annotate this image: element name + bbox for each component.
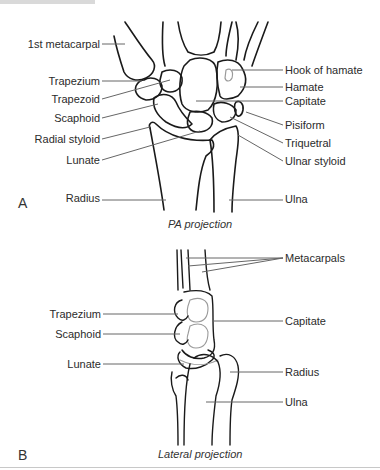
pa-leader-lines	[102, 44, 283, 200]
label-lunate-lateral: Lunate	[67, 358, 101, 371]
label-radial-styloid: Radial styloid	[35, 133, 100, 146]
panel-letter-b: B	[18, 447, 27, 463]
label-scaphoid-lateral: Scaphoid	[55, 328, 101, 341]
label-ulnar-styloid: Ulnar styloid	[285, 155, 346, 168]
label-capitate: Capitate	[285, 95, 326, 108]
label-hook-of-hamate: Hook of hamate	[285, 64, 363, 77]
label-trapezium-lateral: Trapezium	[49, 308, 101, 321]
lateral-leader-lines	[103, 258, 283, 402]
label-trapezoid: Trapezoid	[51, 93, 100, 106]
label-capitate-lateral: Capitate	[285, 315, 326, 328]
pa-projection-drawing	[114, 22, 268, 212]
lateral-projection-drawing	[171, 250, 238, 445]
label-metacarpals: Metacarpals	[285, 252, 345, 265]
label-scaphoid: Scaphoid	[54, 112, 100, 125]
panel-letter-a: A	[18, 195, 27, 211]
label-radius-lateral: Radius	[285, 366, 319, 379]
label-trapezium: Trapezium	[48, 75, 100, 88]
label-hamate: Hamate	[285, 81, 324, 94]
label-radius: Radius	[66, 192, 100, 205]
caption-lateral-projection: Lateral projection	[158, 448, 242, 460]
label-pisiform: Pisiform	[285, 119, 325, 132]
label-triquetral: Triquetral	[285, 137, 331, 150]
label-1st-metacarpal: 1st metacarpal	[28, 38, 100, 51]
label-ulna-lateral: Ulna	[285, 396, 308, 409]
label-ulna: Ulna	[285, 193, 308, 206]
label-lunate: Lunate	[66, 154, 100, 167]
caption-pa-projection: PA projection	[168, 218, 232, 230]
bottom-divider	[0, 467, 380, 468]
